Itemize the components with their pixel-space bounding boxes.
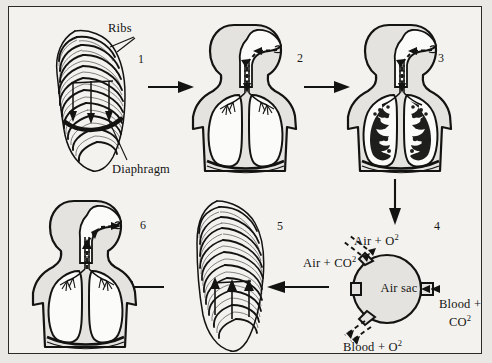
air-in-text: Air + O [354,234,394,248]
air-out-label: Air + CO2 [303,255,356,270]
step-number-3: 3 [438,51,444,66]
torso-exhale-illustration [29,197,139,354]
air-in-label: Air + O2 [354,233,399,248]
arrow-step-1-to-2 [148,79,194,95]
step-number-2: 2 [297,51,303,66]
torso-inhale-illustration [189,21,299,181]
ribcage-inhale-illustration [31,21,151,181]
torso-lungs-filled-illustration [344,21,454,181]
air-in-sup: 2 [394,232,398,242]
blood-in-sup: 2 [467,313,471,323]
blood-in-label: Blood + CO2 [439,297,481,330]
ribs-label: Ribs [108,21,132,35]
blood-in-text2: CO [449,315,467,329]
blood-in-line2: CO2 [439,313,481,331]
blood-out-text: Blood + O [343,340,398,354]
step-number-5: 5 [277,219,283,234]
air-out-text: Air + CO [303,256,352,270]
air-out-sup: 2 [352,254,356,264]
arrow-step-3-to-4 [387,179,403,225]
step-number-4: 4 [434,219,440,234]
blood-out-label: Blood + O2 [343,339,402,354]
diaphragm-label: Diaphragm [112,162,170,176]
step-number-6: 6 [140,218,146,233]
breathing-cycle-figure: Ribs Diaphragm [8,6,482,354]
air-sac-center-label: Air sac [371,281,427,295]
blood-in-line1: Blood + [439,297,481,313]
blood-out-sup: 2 [398,338,402,348]
ribcage-exhale-illustration [167,193,277,354]
step-number-1: 1 [138,52,144,67]
